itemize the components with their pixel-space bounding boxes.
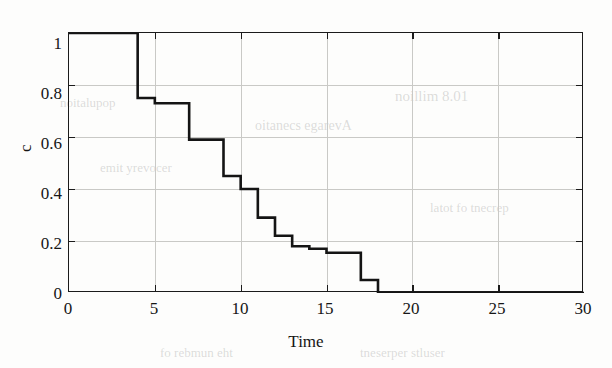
x-tick-label-20: 20 bbox=[391, 300, 431, 317]
y-tick-label-0p8: 0.8 bbox=[16, 85, 62, 102]
step-chart-figure: 1 0.8 0.6 0.4 0.2 0 0 5 10 15 20 25 30 T… bbox=[0, 0, 612, 368]
y-tick-label-0p2: 0.2 bbox=[16, 235, 62, 252]
x-tick-label-0: 0 bbox=[48, 300, 88, 317]
x-tick-label-15: 15 bbox=[305, 300, 345, 317]
x-tick-label-30: 30 bbox=[563, 300, 603, 317]
y-tick-label-1: 1 bbox=[26, 35, 62, 52]
x-tick-label-5: 5 bbox=[134, 300, 174, 317]
x-tick-label-25: 25 bbox=[477, 300, 517, 317]
plot-area bbox=[68, 32, 583, 292]
y-axis-title: c bbox=[16, 144, 36, 152]
step-curve bbox=[69, 33, 584, 293]
x-tick-label-10: 10 bbox=[220, 300, 260, 317]
step-curve-polyline bbox=[69, 33, 584, 293]
x-axis-title: Time bbox=[0, 332, 612, 352]
y-tick-label-0p4: 0.4 bbox=[16, 185, 62, 202]
